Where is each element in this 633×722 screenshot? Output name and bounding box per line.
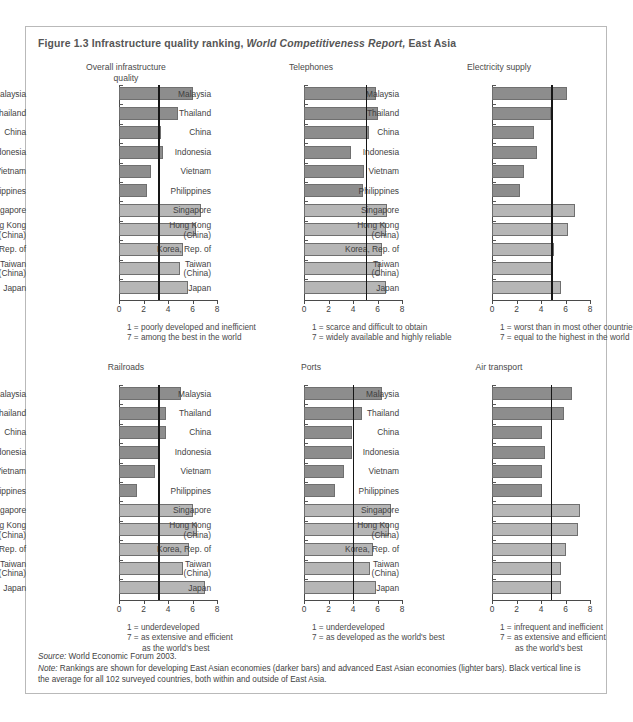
bar [492,387,572,400]
category-label: Malaysia [178,90,215,99]
scale-key-ports: 1 = underdeveloped7 = as developed as th… [312,623,406,644]
bar [492,87,567,100]
bar [492,562,561,575]
bar-row: China [404,424,594,443]
bar-row: Taiwan(China) [404,260,594,279]
category-label: China [189,129,215,138]
bar-row: Korea, Rep. of [404,240,594,259]
category-label: Japan [188,584,215,593]
source-text: World Economic Forum 2003. [69,652,177,661]
x-axis-tick-label: 6 [375,604,380,614]
x-axis-tick-label: 2 [326,304,331,314]
bar [119,165,151,178]
plot-area-air-transport: MalaysiaThailandChinaIndonesiaVietnamPhi… [404,385,594,600]
category-label: Thailand [367,409,403,418]
bar [492,281,561,294]
bar-track [492,463,590,482]
bar-track [492,85,590,104]
category-label: Malaysia [178,390,215,399]
scale-key-line: 7 = as developed as the world's best [312,633,406,643]
category-label: Thailand [0,409,30,418]
category-label: Philippines [0,187,30,196]
x-axis-tick-label: 0 [117,304,122,314]
category-label: Philippines [171,187,216,196]
x-axis-tick [119,600,120,604]
scale-key-line: 7 = among the best in the world [127,333,221,343]
scale-key-line: 7 = equal to the highest in the world [500,333,594,343]
category-label: Vietnam [0,468,30,477]
category-label: Taiwan(China) [0,560,30,578]
x-axis-tick-label: 6 [190,304,195,314]
bar [492,107,551,120]
bar [304,165,364,178]
category-label: Indonesia [0,448,30,457]
bar [492,465,542,478]
category-label: Philippines [359,187,404,196]
x-axis-overall-infrastructure-quality: 02468 [31,300,221,322]
chart-panel-electricity-supply: Electricity supplyMalaysiaThailandChinaI… [404,61,594,361]
x-axis-tick-label: 4 [166,304,171,314]
bar [492,223,568,236]
x-axis-tick-label: 0 [490,604,495,614]
bar [492,126,534,139]
bar-row: Hong Kong(China) [404,221,594,240]
category-label: Malaysia [366,390,403,399]
x-axis-line: 02468 [304,600,402,601]
x-axis-line: 02468 [119,600,217,601]
x-axis-tick [193,600,194,604]
scale-key-electricity-supply: 1 = worst than in most other countries7 … [500,323,594,344]
bar-row: Thailand [404,104,594,123]
bar [492,165,524,178]
x-axis-tick-label: 8 [588,304,593,314]
category-label: Thailand [179,409,215,418]
figure-title: Figure 1.3 Infrastructure quality rankin… [38,38,598,49]
category-label: Korea, Rep. of [345,245,403,254]
scale-key-line: 1 = underdeveloped [127,623,221,633]
bar-row: Thailand [404,404,594,423]
x-axis-tick [353,600,354,604]
panel-grid: Overall infrastructurequalityMalaysiaTha… [26,61,606,661]
scale-key-air-transport: 1 = infrequent and inefficient7 = as ext… [500,623,594,654]
scale-key-overall-infrastructure-quality: 1 = poorly developed and inefficient7 = … [127,323,221,344]
category-label: China [4,429,30,438]
chart-title-line1: Railroads [31,362,221,373]
category-label: Singapore [361,206,403,215]
category-label: Japan [3,284,30,293]
x-axis-tick-label: 2 [141,304,146,314]
bar [492,204,575,217]
chart-title-line1: Air transport [404,362,594,373]
bar [304,281,386,294]
bar-row: Indonesia [404,443,594,462]
bar-row: Japan [404,579,594,598]
category-label: Singapore [0,206,30,215]
bar [304,465,344,478]
scale-key-line: 7 = widely available and highly reliable [312,333,406,343]
bar-row: Japan [404,279,594,298]
x-axis-tick [119,300,120,304]
scale-key-line: 1 = worst than in most other countries [500,323,594,333]
x-axis-telephones: 02468 [216,300,406,322]
bar-track [492,482,590,501]
bar-track [492,240,590,259]
category-label: Korea, Rep. of [0,245,30,254]
bar [304,581,376,594]
category-label: Hong Kong(China) [0,221,30,239]
bar [119,484,137,497]
x-axis-tick-label: 4 [539,304,544,314]
bar [304,407,362,420]
bar-track [492,521,590,540]
scale-key-line: 7 = as extensive and efficient [500,633,594,643]
x-axis-tick [590,300,591,304]
bar-row: Malaysia [404,385,594,404]
scale-key-line: 1 = poorly developed and inefficient [127,323,221,333]
bar-track [492,260,590,279]
scale-key-line: 1 = underdeveloped [312,623,406,633]
bar [492,184,520,197]
category-label: Thailand [367,109,403,118]
bar-track [492,540,590,559]
x-axis-tick [402,600,403,604]
category-label: Japan [376,584,403,593]
bar [492,407,564,420]
bar-track [492,182,590,201]
x-axis-tick-label: 2 [141,604,146,614]
